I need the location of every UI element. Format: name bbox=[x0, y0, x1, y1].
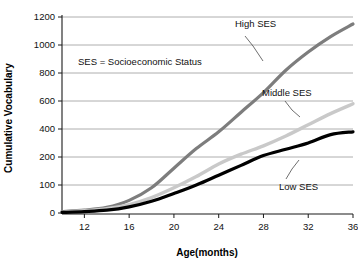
y-axis-tick-label: 600 bbox=[39, 95, 55, 106]
y-axis-tick-label: 400 bbox=[39, 123, 55, 134]
y-axis-tick-label: 800 bbox=[39, 67, 55, 78]
y-axis-title: Cumulative Vocabulary bbox=[3, 63, 14, 173]
chart-container: 010020040060080010001200 12162024283236 … bbox=[0, 0, 358, 269]
series-label-low-ses: Low SES bbox=[279, 181, 318, 192]
y-axis-tick-label: 1200 bbox=[34, 11, 55, 22]
series-label-middle-ses: Middle SES bbox=[262, 87, 312, 98]
middle-ses-leader-line bbox=[285, 101, 300, 117]
x-axis-tick-label: 36 bbox=[348, 221, 358, 232]
x-axis-ticks-group: 12162024283236 bbox=[79, 214, 358, 232]
y-axis-tick-label: 1000 bbox=[34, 39, 55, 50]
y-axis-tick-label: 200 bbox=[39, 151, 55, 162]
x-axis-tick-label: 16 bbox=[124, 221, 135, 232]
y-axis-tick-label: 100 bbox=[39, 179, 55, 190]
series-line-middle-ses bbox=[62, 104, 353, 212]
series-label-high-ses: High SES bbox=[235, 18, 276, 29]
y-axis-tick-label: 0 bbox=[50, 207, 55, 218]
x-axis-tick-label: 32 bbox=[303, 221, 314, 232]
x-axis-title: Age(months) bbox=[176, 247, 238, 258]
x-axis-tick-label: 24 bbox=[213, 221, 224, 232]
gridlines-group bbox=[62, 17, 353, 185]
vocabulary-growth-chart: 010020040060080010001200 12162024283236 … bbox=[0, 0, 358, 269]
ses-definition-note: SES = Socioeconomic Status bbox=[78, 56, 202, 67]
high-ses-leader-line bbox=[245, 36, 263, 61]
x-axis-tick-label: 28 bbox=[258, 221, 269, 232]
x-axis-tick-label: 12 bbox=[79, 221, 90, 232]
x-axis-tick-label: 20 bbox=[169, 221, 180, 232]
y-axis-ticks-group: 010020040060080010001200 bbox=[34, 11, 62, 218]
low-ses-leader-line bbox=[286, 160, 299, 179]
